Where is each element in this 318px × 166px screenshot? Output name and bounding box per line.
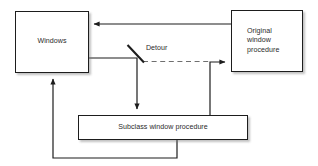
detour-annotation-label: Detour <box>146 44 167 52</box>
edge-subclass-to-original <box>210 62 225 115</box>
edge-windows-to-subclass <box>89 58 137 109</box>
node-windows-label: Windows <box>37 37 66 46</box>
node-original-window-procedure-label: Original window procedure <box>232 27 279 55</box>
node-subclass-window-procedure-label: Subclass window procedure <box>118 123 208 132</box>
node-original-window-procedure: Original window procedure <box>231 10 303 72</box>
node-windows: Windows <box>15 11 89 73</box>
detour-slash-icon <box>128 45 145 63</box>
diagram-canvas: Windows Original window procedure Subcla… <box>0 0 318 166</box>
node-subclass-window-procedure: Subclass window procedure <box>78 115 248 140</box>
